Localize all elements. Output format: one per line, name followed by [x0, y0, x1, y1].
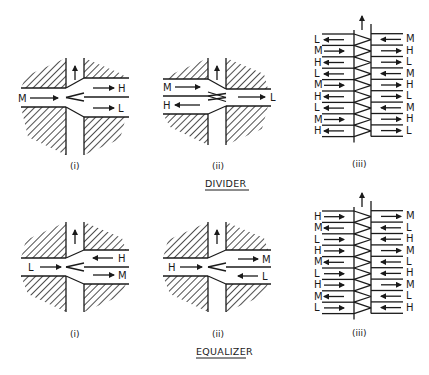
stream-label: L [406, 256, 412, 267]
caption: (i) [70, 329, 80, 339]
stream-label: H [314, 125, 322, 136]
equalizer-panel-ii: (ii) [212, 329, 224, 339]
equalizer-ii-drawing: HML [163, 222, 271, 312]
stream-label: L [314, 302, 320, 313]
stream-label: M [314, 79, 323, 90]
stream-label: H [314, 245, 322, 256]
divider-i-drawing: MHL [18, 58, 129, 155]
stream-label: M [406, 279, 415, 290]
stream-label: H [118, 253, 126, 264]
stream-label: H [314, 211, 322, 222]
equalizer-i-drawing: LHM [21, 222, 129, 312]
equalizer-panel-iii: (iii) [352, 328, 367, 338]
stream-label: L [314, 68, 320, 79]
stream-label: M [314, 45, 323, 56]
stream-label: M [163, 82, 172, 93]
stream-label: L [406, 222, 412, 233]
stream-label: L [406, 290, 412, 301]
stream-label: L [262, 271, 268, 282]
stream-label: H [406, 45, 414, 56]
stream-label: H [406, 113, 414, 124]
stream-label: M [406, 33, 415, 44]
stream-label: M [118, 270, 127, 281]
stream-label: L [118, 103, 124, 114]
stream-label: L [314, 102, 320, 113]
stream-label: H [406, 302, 414, 313]
stream-label: L [406, 90, 412, 101]
stream-label: H [406, 267, 414, 278]
stream-label: H [314, 57, 322, 68]
section-title-equalizer: EQUALIZER [196, 346, 253, 357]
caption: (iii) [352, 159, 367, 169]
divider-panel-iii: (iii) [352, 159, 367, 169]
divider-ii-drawing: MHL [163, 58, 276, 145]
caption: (ii) [212, 161, 224, 171]
stream-label: L [314, 34, 320, 45]
stream-label: L [270, 92, 276, 103]
section-title-divider: DIVIDER [205, 178, 247, 189]
stream-label: L [406, 125, 412, 136]
stream-label: L [314, 234, 320, 245]
divider-panel-i: (i) [70, 161, 80, 171]
stream-label: M [314, 256, 323, 267]
equalizer-iii-drawing: HMLHMLHMLMLHMLHMLH [314, 193, 415, 320]
stream-label: M [314, 291, 323, 302]
stream-label: H [406, 79, 414, 90]
stream-label: M [314, 114, 323, 125]
divider-equalizer-diagram: (i) (ii) (iii) DIVIDER (i) (ii) (iii) EQ… [0, 0, 429, 375]
stream-label: L [28, 262, 34, 273]
stream-label: M [406, 102, 415, 113]
stream-label: M [406, 210, 415, 221]
stream-label: H [406, 233, 414, 244]
stream-label: H [168, 262, 176, 273]
stream-label: M [262, 254, 271, 265]
equalizer-panel-i: (i) [70, 329, 80, 339]
stream-label: H [163, 100, 171, 111]
stream-label: M [18, 93, 27, 104]
stream-label: H [314, 91, 322, 102]
stream-label: L [406, 56, 412, 67]
caption: (iii) [352, 328, 367, 338]
stream-label: M [314, 222, 323, 233]
stream-label: M [406, 68, 415, 79]
caption: (i) [70, 161, 80, 171]
stream-label: L [314, 268, 320, 279]
caption: (ii) [212, 329, 224, 339]
stream-label: M [406, 245, 415, 256]
stream-label: H [314, 279, 322, 290]
divider-panel-ii: (ii) [212, 161, 224, 171]
stream-label: H [118, 83, 126, 94]
divider-iii-drawing: LMHLMHLMHMHLMHLMHL [314, 16, 415, 143]
